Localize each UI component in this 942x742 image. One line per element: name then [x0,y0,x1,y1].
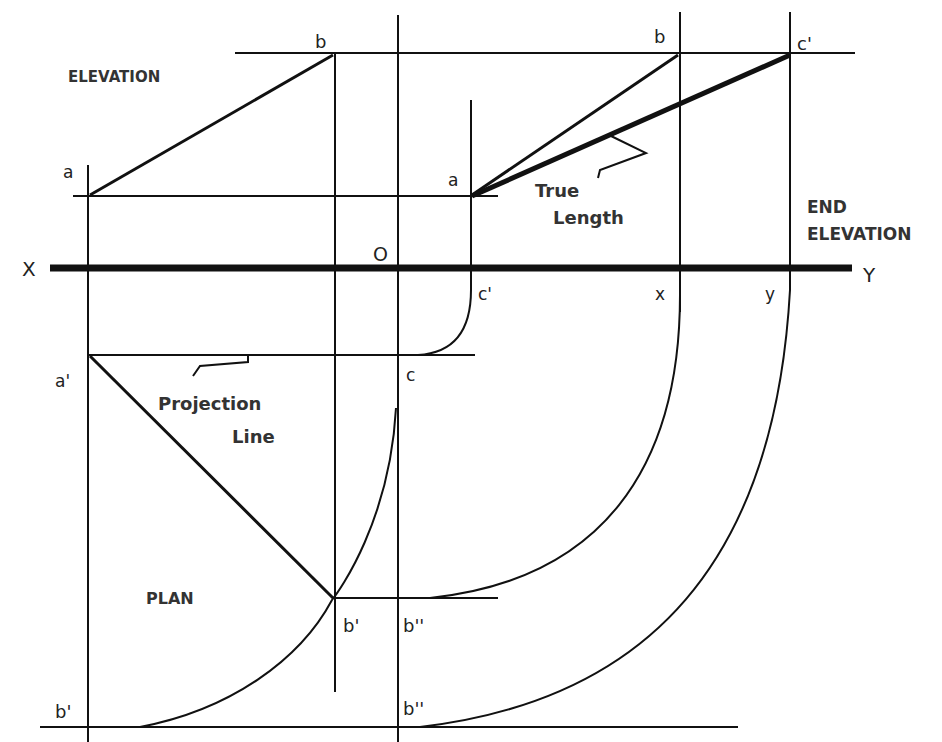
point-label-x: x [655,284,665,304]
point-label-c-prime-end: c' [797,33,812,54]
point-label-b-end: b [654,26,665,47]
end-elevation-label-line2: ELEVATION [807,224,912,244]
point-label-c-prime-xy: c' [478,284,492,304]
true-length-line [472,55,790,196]
projection-line-leader [193,355,248,376]
point-label-b-double-prime: b'' [403,615,424,636]
plan-label: PLAN [146,589,194,608]
true-length-label-line2: Length [553,207,624,228]
point-label-c: c [406,365,415,385]
projection-line-label-line1: Projection [158,393,261,414]
origin-label: O [373,243,388,265]
point-label-y: y [765,284,775,304]
point-label-b-double-prime-bottom: b'' [403,698,424,719]
labels: ELEVATION PLAN END ELEVATION X Y O True … [22,26,912,722]
y-axis-label: Y [862,263,876,287]
projection-line-label-line2: Line [232,426,275,447]
true-length-label-line1: True [535,180,579,201]
end-elevation-label-line1: END [807,197,847,217]
point-label-a-prime: a' [55,371,70,391]
point-label-b-prime-bottom: b' [55,701,71,722]
end-elevation-line-ab [472,55,678,195]
projection-diagram: ELEVATION PLAN END ELEVATION X Y O True … [0,0,942,742]
arc-b-prime-to-bottom [140,408,396,727]
point-label-b-elevation: b [315,31,326,52]
point-label-b-prime: b' [343,615,359,636]
object-lines [50,55,852,598]
point-label-a-elevation: a [63,162,73,182]
x-axis-label: X [22,257,36,281]
elevation-label: ELEVATION [68,68,160,86]
arc-c-prime-to-c [418,290,471,355]
point-label-a-end: a [448,170,458,190]
construction-lines [40,12,855,742]
arc-x-to-b-double-prime [430,295,680,598]
true-length-leader [598,136,646,178]
arc-y-to-bottom-b-double-prime [420,290,790,727]
